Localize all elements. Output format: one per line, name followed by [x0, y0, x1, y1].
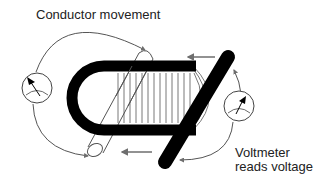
voltmeter-left-icon [22, 73, 52, 103]
voltmeter-label-line1: Voltmeter [235, 146, 313, 160]
voltmeter-right-icon [224, 91, 254, 121]
u-magnet [72, 66, 196, 130]
conductor-movement-label: Conductor movement [36, 8, 160, 22]
voltmeter-label-line2: reads voltage [235, 160, 313, 174]
voltmeter-label: Voltmeter reads voltage [235, 146, 313, 174]
